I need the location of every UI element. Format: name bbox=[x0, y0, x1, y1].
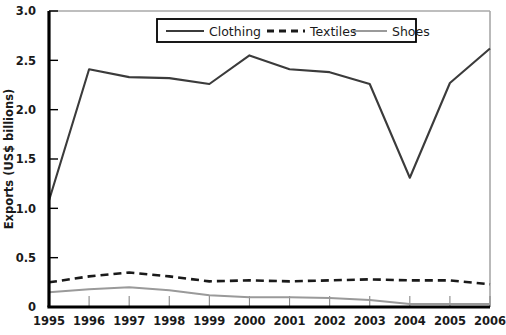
x-tick-label-1998: 1998 bbox=[153, 314, 185, 328]
y-axis-tick-labels: 00.51.01.52.02.53.0 bbox=[16, 4, 36, 314]
y-axis-title: Exports (US$ billions) bbox=[2, 89, 16, 230]
axis-lines bbox=[47, 11, 490, 307]
legend-label-textiles: Textiles bbox=[309, 24, 356, 39]
y-tick-label-1.0: 1.0 bbox=[16, 202, 36, 216]
legend-label-clothing: Clothing bbox=[209, 24, 261, 39]
x-tick-label-2001: 2001 bbox=[274, 314, 306, 328]
x-tick-label-2004: 2004 bbox=[394, 314, 426, 328]
y-tick-label-0: 0 bbox=[28, 300, 36, 314]
x-tick-label-1999: 1999 bbox=[193, 314, 225, 328]
y-tick-label-0.5: 0.5 bbox=[16, 251, 36, 265]
x-tick-label-2002: 2002 bbox=[314, 314, 346, 328]
x-tick-label-2003: 2003 bbox=[354, 314, 386, 328]
y-tick-label-2.5: 2.5 bbox=[16, 54, 36, 68]
series-line-shoes bbox=[49, 287, 490, 304]
y-tick-label-1.5: 1.5 bbox=[16, 152, 36, 166]
x-tick-label-2000: 2000 bbox=[233, 314, 265, 328]
chart-container: 00.51.01.52.02.53.0 19951996199719981999… bbox=[0, 0, 506, 335]
y-axis-title-text: Exports (US$ billions) bbox=[2, 89, 16, 230]
legend-label-shoes: Shoes bbox=[392, 24, 430, 39]
x-tick-label-1996: 1996 bbox=[73, 314, 105, 328]
series-line-textiles bbox=[49, 272, 490, 284]
x-tick-label-1997: 1997 bbox=[113, 314, 145, 328]
x-tick-label-2006: 2006 bbox=[474, 314, 506, 328]
y-tick-label-2.0: 2.0 bbox=[16, 103, 36, 117]
chart-legend: ClothingTextilesShoes bbox=[157, 19, 430, 42]
y-tick-label-3.0: 3.0 bbox=[16, 4, 36, 18]
plot-frame bbox=[49, 11, 490, 307]
line-chart: 00.51.01.52.02.53.0 19951996199719981999… bbox=[0, 0, 506, 335]
x-tick-label-2005: 2005 bbox=[434, 314, 466, 328]
x-tick-label-1995: 1995 bbox=[33, 314, 65, 328]
x-axis-tick-labels: 1995199619971998199920002001200220032004… bbox=[33, 314, 506, 328]
series-line-clothing bbox=[49, 48, 490, 200]
series-lines bbox=[49, 48, 490, 304]
